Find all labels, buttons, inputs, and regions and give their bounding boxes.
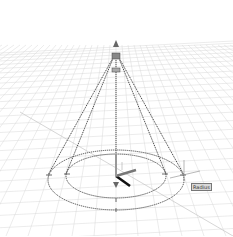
grid-line: [212, 45, 233, 236]
grid-line: [128, 45, 160, 236]
apex-label-grip[interactable]: [112, 68, 120, 72]
grid-line: [0, 45, 2, 236]
grid-line: [122, 45, 138, 236]
grid-line: [0, 191, 233, 203]
grid-line: [206, 45, 233, 236]
bottom-grip-icon[interactable]: [113, 182, 119, 188]
grid-line: [28, 45, 92, 236]
grid-line: [0, 203, 233, 215]
grid-line: [230, 45, 233, 236]
grid-line: [0, 229, 233, 237]
top-grip-icon[interactable]: [113, 40, 119, 47]
grid-line: [0, 45, 68, 236]
scene: [0, 0, 233, 236]
dynamic-input-tooltip: Radius: [191, 183, 212, 191]
grid-line: [0, 45, 56, 236]
grid-line: [94, 45, 110, 236]
cone-edge-left-inner: [66, 56, 114, 174]
3d-viewport[interactable]: Radius: [0, 0, 233, 236]
cone-edge-right-inner: [118, 56, 166, 174]
apex-grip[interactable]: [112, 53, 120, 59]
grid-line: [0, 45, 62, 236]
grid-line: [0, 45, 50, 236]
